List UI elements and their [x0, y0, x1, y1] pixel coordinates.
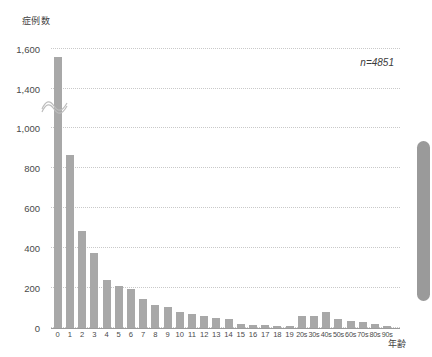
x-axis-title: 年齢	[388, 337, 407, 350]
bar	[188, 314, 196, 328]
x-tick-label: 60s	[345, 330, 356, 339]
x-tick-label: 10	[176, 330, 184, 339]
y-tick-label: 1,000	[16, 123, 40, 134]
vertical-scrollbar-thumb[interactable]	[417, 141, 430, 301]
x-tick-label: 17	[261, 330, 269, 339]
x-tick-label: 18	[273, 330, 281, 339]
bar	[322, 312, 330, 328]
x-tick-label: 20s	[296, 330, 307, 339]
bar	[78, 231, 86, 328]
x-tick-label: 4	[104, 330, 108, 339]
bar	[90, 253, 98, 328]
bar	[127, 289, 135, 328]
x-axis-tick-labels: 01234567891011121314151617181920s30s40s5…	[51, 329, 400, 345]
y-tick-label: 0	[35, 323, 40, 334]
y-tick-label: 200	[24, 283, 40, 294]
x-tick-label: 8	[153, 330, 157, 339]
bar	[225, 319, 233, 328]
bar	[298, 316, 306, 328]
bar	[334, 319, 342, 328]
x-tick-label: 12	[200, 330, 208, 339]
bar	[347, 321, 355, 328]
bar	[212, 318, 220, 328]
chart-container: 症例数 02004006008001,0001,4001,600 0123456…	[0, 0, 432, 357]
x-tick-label: 3	[92, 330, 96, 339]
x-tick-label: 30s	[308, 330, 319, 339]
x-tick-label: 16	[249, 330, 257, 339]
x-tick-label: 6	[129, 330, 133, 339]
bar	[151, 305, 159, 328]
bar	[200, 316, 208, 328]
x-tick-label: 40s	[321, 330, 332, 339]
bar	[115, 286, 123, 328]
vertical-scrollbar-track[interactable]	[416, 0, 432, 357]
x-tick-label: 5	[117, 330, 121, 339]
bar-series	[51, 49, 400, 328]
bar	[176, 312, 184, 328]
y-tick-label: 600	[24, 203, 40, 214]
x-tick-label: 13	[212, 330, 220, 339]
x-tick-label: 14	[224, 330, 232, 339]
x-tick-label: 1	[68, 330, 72, 339]
y-tick-label: 800	[24, 163, 40, 174]
x-tick-label: 50s	[333, 330, 344, 339]
bar	[164, 307, 172, 328]
y-axis-title: 症例数	[22, 14, 50, 27]
sample-size-annotation: n=4851	[360, 57, 394, 68]
y-axis-tick-labels: 02004006008001,0001,4001,600	[0, 49, 46, 328]
y-tick-label: 400	[24, 243, 40, 254]
y-tick-label: 1,400	[16, 84, 40, 95]
bar	[103, 280, 111, 328]
x-tick-label: 19	[285, 330, 293, 339]
bar	[139, 299, 147, 328]
x-tick-label: 80s	[369, 330, 380, 339]
bar	[66, 155, 74, 328]
y-tick-label: 1,600	[16, 44, 40, 55]
x-tick-label: 9	[165, 330, 169, 339]
x-tick-label: 2	[80, 330, 84, 339]
x-tick-label: 70s	[357, 330, 368, 339]
bar	[54, 57, 62, 328]
bar	[310, 316, 318, 328]
plot-area	[51, 49, 400, 328]
x-tick-label: 7	[141, 330, 145, 339]
x-tick-label: 15	[237, 330, 245, 339]
x-tick-label: 0	[56, 330, 60, 339]
x-tick-label: 11	[188, 330, 196, 339]
